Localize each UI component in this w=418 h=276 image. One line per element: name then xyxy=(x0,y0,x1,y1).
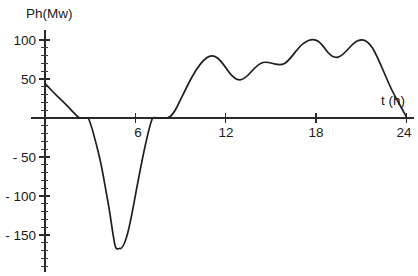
x-tick-label-12: 12 xyxy=(218,125,233,140)
y-tick-label-100: 100 xyxy=(13,33,36,48)
y-axis-title: Ph(Mw) xyxy=(26,6,73,21)
x-tick-label-24: 24 xyxy=(396,125,412,140)
y-tick-label-neg150: - 150 xyxy=(5,228,36,243)
ph-curve xyxy=(45,40,406,249)
x-axis-title: t (h) xyxy=(381,93,405,108)
y-tick-label-50: 50 xyxy=(21,72,36,87)
x-tick-label-6: 6 xyxy=(134,125,142,140)
chart-container: Ph(Mw) t (h) 100 50 - 50 - 100 - 150 6 1… xyxy=(0,0,418,276)
y-tick-label-neg50: - 50 xyxy=(13,150,36,165)
line-chart: Ph(Mw) t (h) 100 50 - 50 - 100 - 150 6 1… xyxy=(0,0,418,276)
x-tick-label-18: 18 xyxy=(308,125,323,140)
y-tick-label-neg100: - 100 xyxy=(5,189,36,204)
